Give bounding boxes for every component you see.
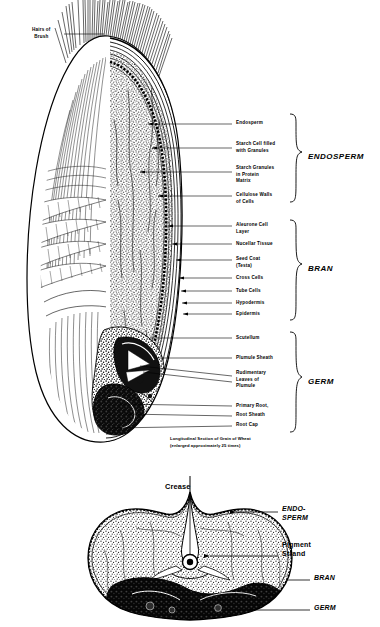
label-tube-cells: Tube Cells — [236, 288, 261, 295]
figure-caption: Longitudinal Section of Grain of Wheat (… — [170, 436, 251, 449]
crease-label: Crease — [165, 482, 191, 491]
label-seed-coat: Seed Coat (Testa) — [236, 256, 260, 269]
longitudinal-section-drawing — [0, 0, 380, 470]
brace-endosperm — [290, 114, 302, 202]
label-root-cap: Root Cap — [236, 422, 258, 429]
label-hypodermis: Hypodermis — [236, 300, 264, 307]
brace-bran — [290, 220, 302, 320]
group-label-endosperm: ENDOSPERM — [308, 152, 364, 161]
label-starch-cell: Starch Cell filled with Granules — [236, 141, 275, 154]
cross-section-body — [80, 490, 300, 627]
label-starch-granules: Starch Granules in Protein Matrix — [236, 165, 274, 185]
label-plumule-sheath: Plumule Sheath — [236, 355, 273, 362]
label-nucellar-tissue: Nucellar Tissue — [236, 241, 273, 248]
label-primary-root: Primary Root, — [236, 403, 269, 410]
group-braces — [290, 114, 302, 432]
cross-label-germ: GERM — [314, 604, 336, 613]
cross-label-bran: BRAN — [314, 574, 335, 583]
label-aleurone-layer: Aleurone Cell Layer — [236, 222, 268, 235]
cross-label-endosperm: ENDO- SPERM — [282, 505, 308, 523]
label-cellulose-walls: Cellulose Walls of Cells — [236, 192, 272, 205]
label-rudimentary-leaves: Rudimentary Leaves of Plumule — [236, 370, 266, 390]
group-label-bran: BRAN — [308, 264, 333, 273]
cross-label-pigment-strand: Pigment Strand — [282, 541, 311, 559]
brush-label: Hairs of Brush — [32, 27, 51, 40]
label-root-sheath: Root Sheath — [236, 412, 265, 419]
germ-region — [92, 327, 164, 435]
group-label-germ: GERM — [308, 377, 334, 386]
wheat-grain-figure: Hairs of Brush Endosperm Starch Cell fil… — [0, 0, 380, 627]
label-epidermis: Epidermis — [236, 311, 260, 318]
brace-germ — [290, 332, 302, 432]
grain-body — [0, 0, 380, 470]
label-cross-cells: Cross Cells — [236, 275, 263, 282]
label-scutellum: Scutellum — [236, 335, 260, 342]
label-endosperm: Endosperm — [236, 120, 263, 127]
